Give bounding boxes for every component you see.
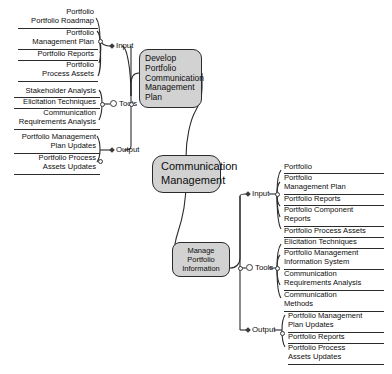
node-line: Plan: [145, 93, 196, 103]
leaf-underline: [288, 364, 384, 365]
branch-label-text: Tools: [255, 263, 273, 272]
leaf-right-input-portfolio-reports[interactable]: Portfolio Reports: [284, 195, 388, 204]
root-line: Management: [161, 174, 212, 188]
leaf-line: Requirements Analysis: [2, 118, 96, 127]
mindmap-canvas: Input Portfolio Portfolio Roadmap Portfo…: [0, 0, 392, 374]
branch-label-text: Input: [116, 41, 133, 50]
diamond-marker-icon: [245, 327, 251, 333]
process-node-develop-portfolio-communication-management-plan[interactable]: Develop Portfolio Communication Manageme…: [139, 49, 202, 108]
leaf-left-tools-stakeholder-analysis[interactable]: Stakeholder Analysis: [2, 87, 96, 96]
leaf-line: Portfolio Reports: [284, 195, 388, 204]
leaf-line: Management Plan: [4, 38, 94, 47]
junction-node-icon[interactable]: [280, 331, 285, 336]
leaf-right-tools-portfolio-management-information-system[interactable]: Portfolio Management Information System: [284, 249, 388, 267]
leaf-left-input-portfolio-roadmap[interactable]: Portfolio Portfolio Roadmap: [4, 8, 94, 26]
leaf-left-output-portfolio-management-plan-updates[interactable]: Portfolio Management Plan Updates: [2, 133, 96, 151]
leaf-underline: [14, 129, 100, 130]
node-line: Portfolio: [177, 255, 225, 264]
leaf-right-input-portfolio-process-assets[interactable]: Portfolio Process Assets: [284, 227, 388, 236]
leaf-line: Elicitation Techniques: [2, 98, 96, 107]
circle-marker-icon: [246, 264, 253, 271]
branch-label-right-output[interactable]: Output: [246, 325, 275, 334]
diamond-marker-icon: [245, 191, 251, 197]
leaf-right-output-portfolio-reports[interactable]: Portfolio Reports: [288, 333, 388, 342]
leaf-right-tools-elicitation-techniques[interactable]: Elicitation Techniques: [284, 238, 388, 247]
junction-node-icon[interactable]: [129, 102, 134, 107]
diamond-marker-icon: [109, 43, 115, 49]
junction-node-icon[interactable]: [275, 192, 280, 197]
leaf-line: Assets Updates: [288, 353, 388, 362]
leaf-left-input-portfolio-process-assets[interactable]: Portfolio Process Assets: [4, 61, 94, 79]
branch-label-left-input[interactable]: Input: [110, 41, 133, 50]
leaf-line: Process Assets: [4, 70, 94, 79]
circle-marker-icon: [110, 100, 117, 107]
node-line: Information: [177, 264, 225, 273]
leaf-line: Plan Updates: [288, 321, 388, 330]
leaf-line: Management Plan: [284, 183, 388, 192]
leaf-left-output-portfolio-process-assets-updates[interactable]: Portfolio Process Assets Updates: [2, 154, 96, 172]
branch-label-text: Input: [252, 189, 269, 198]
leaf-right-tools-communication-requirements-analysis[interactable]: Communication Requirements Analysis: [284, 270, 388, 288]
leaf-line: Plan Updates: [2, 142, 96, 151]
leaf-line: Elicitation Techniques: [284, 238, 388, 247]
junction-node-icon[interactable]: [275, 266, 280, 271]
leaf-line: Stakeholder Analysis: [2, 87, 96, 96]
process-node-manage-portfolio-information[interactable]: Manage Portfolio Information: [172, 242, 230, 277]
leaf-line: Portfolio Roadmap: [4, 17, 94, 26]
leaf-line: Portfolio: [284, 163, 388, 172]
node-line: Manage: [177, 246, 225, 255]
leaf-left-tools-communication-requirements-analysis[interactable]: Communication Requirements Analysis: [2, 109, 96, 127]
leaf-line: Portfolio Process Assets: [284, 227, 388, 236]
branch-label-right-tools[interactable]: Tools: [246, 263, 273, 272]
junction-node-icon[interactable]: [238, 266, 243, 271]
junction-node-icon[interactable]: [98, 39, 103, 44]
node-line: Develop Portfolio: [145, 54, 196, 74]
branch-label-left-output[interactable]: Output: [110, 145, 139, 154]
leaf-right-output-portfolio-management-plan-updates[interactable]: Portfolio Management Plan Updates: [288, 312, 388, 330]
leaf-line: Portfolio Reports: [4, 50, 94, 59]
leaf-line: Methods: [284, 300, 388, 309]
leaf-right-input-portfolio[interactable]: Portfolio: [284, 163, 388, 172]
leaf-right-tools-communication-methods[interactable]: Communication Methods: [284, 291, 388, 309]
leaf-line: Requirements Analysis: [284, 279, 388, 288]
root-line: Communication: [161, 160, 212, 174]
leaf-underline: [14, 174, 100, 175]
leaf-right-input-portfolio-management-plan[interactable]: Portfolio Management Plan: [284, 174, 388, 192]
diamond-marker-icon: [109, 147, 115, 153]
leaf-line: Portfolio Reports: [288, 333, 388, 342]
leaf-line: Information System: [284, 258, 388, 267]
leaf-line: Reports: [284, 215, 388, 224]
branch-label-text: Output: [252, 325, 275, 334]
leaf-left-input-portfolio-management-plan[interactable]: Portfolio Management Plan: [4, 29, 94, 47]
leaf-right-output-portfolio-process-assets-updates[interactable]: Portfolio Process Assets Updates: [288, 344, 388, 362]
branch-label-text: Output: [116, 145, 139, 154]
root-node-communication-management[interactable]: Communication Management: [152, 155, 221, 193]
leaf-underline: [18, 81, 98, 82]
junction-node-icon[interactable]: [98, 159, 103, 164]
junction-node-icon[interactable]: [100, 102, 105, 107]
branch-label-right-input[interactable]: Input: [246, 189, 269, 198]
leaf-right-input-portfolio-component-reports[interactable]: Portfolio Component Reports: [284, 206, 388, 224]
leaf-left-tools-elicitation-techniques[interactable]: Elicitation Techniques: [2, 98, 96, 107]
leaf-left-input-portfolio-reports[interactable]: Portfolio Reports: [4, 50, 94, 59]
leaf-line: Assets Updates: [2, 163, 96, 172]
